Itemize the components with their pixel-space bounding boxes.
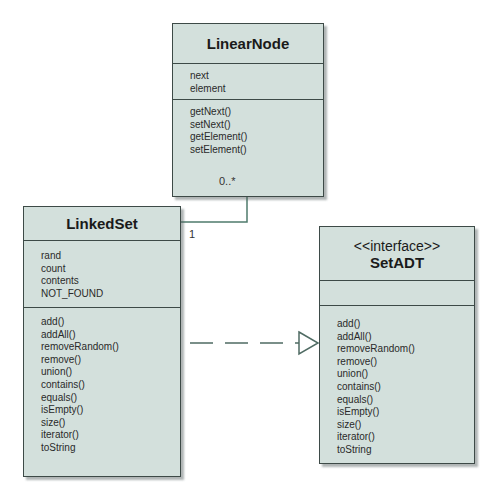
attributes-section: rand count contents NOT_FOUND	[24, 241, 180, 308]
attribute: rand	[41, 250, 180, 263]
method: iterator()	[41, 429, 180, 442]
class-name: LinkedSet	[24, 207, 180, 241]
method: iterator()	[337, 431, 474, 444]
method: size()	[41, 417, 180, 430]
method: union()	[337, 368, 474, 381]
method: addAll()	[337, 331, 474, 344]
method: setElement()	[190, 144, 323, 157]
multiplicity-to: 0..*	[219, 175, 236, 187]
method: size()	[337, 419, 474, 432]
attribute: count	[41, 263, 180, 276]
attribute: NOT_FOUND	[41, 288, 180, 301]
method: add()	[337, 318, 474, 331]
method: setNext()	[190, 119, 323, 132]
methods-section: add() addAll() removeRandom() remove() u…	[24, 308, 180, 455]
method: removeRandom()	[337, 343, 474, 356]
class-name: SetADT	[370, 254, 424, 271]
method: removeRandom()	[41, 341, 180, 354]
method: remove()	[41, 354, 180, 367]
method: contains()	[41, 379, 180, 392]
interface-set-adt[interactable]: <<interface>> SetADT add() addAll() remo…	[319, 226, 475, 464]
methods-section: getNext() setNext() getElement() setElem…	[173, 100, 323, 156]
association-line	[181, 197, 247, 222]
attribute: contents	[41, 275, 180, 288]
method: addAll()	[41, 329, 180, 342]
realization-arrowhead-icon	[299, 332, 318, 354]
method: equals()	[41, 392, 180, 405]
attributes-section	[320, 281, 474, 306]
method: contains()	[337, 381, 474, 394]
method: remove()	[337, 356, 474, 369]
interface-header: <<interface>> SetADT	[320, 227, 474, 281]
method: toString	[41, 442, 180, 455]
method: getElement()	[190, 131, 323, 144]
stereotype-label: <<interface>>	[320, 238, 474, 254]
method: add()	[41, 316, 180, 329]
method: isEmpty()	[337, 406, 474, 419]
method: getNext()	[190, 106, 323, 119]
class-linear-node[interactable]: LinearNode next element getNext() setNex…	[172, 23, 324, 197]
method: equals()	[337, 394, 474, 407]
attributes-section: next element	[173, 64, 323, 100]
methods-section: add() addAll() removeRandom() remove() u…	[320, 306, 474, 457]
class-linked-set[interactable]: LinkedSet rand count contents NOT_FOUND …	[23, 206, 181, 477]
attribute: next	[190, 70, 323, 83]
method: isEmpty()	[41, 404, 180, 417]
class-name: LinearNode	[173, 24, 323, 64]
attribute: element	[190, 83, 323, 96]
multiplicity-from: 1	[189, 228, 195, 240]
method: union()	[41, 366, 180, 379]
method: toString	[337, 444, 474, 457]
